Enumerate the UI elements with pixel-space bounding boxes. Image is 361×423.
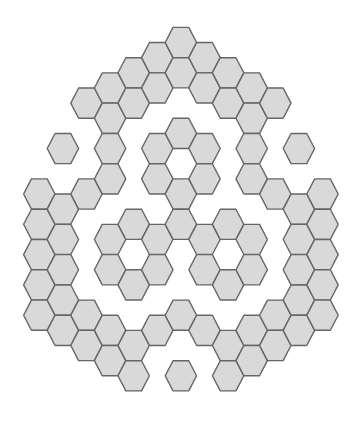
hexagon-tile: [165, 361, 196, 391]
hexagon-tile: [307, 209, 338, 239]
hexagon-tile: [47, 224, 78, 254]
hexagon-tile: [236, 255, 267, 285]
hexagon-tile: [307, 240, 338, 270]
hexagon-tile: [307, 179, 338, 209]
hexagon-figure: [0, 0, 361, 423]
hexagon-tile: [94, 164, 125, 194]
hexagon-tile: [118, 361, 149, 391]
hexagon-tile: [260, 88, 291, 118]
hexagon-tile: [47, 255, 78, 285]
hexagon-tile: [283, 133, 314, 163]
hexagon-tile: [47, 133, 78, 163]
hexagon-tile: [307, 300, 338, 330]
hexagon-tile: [189, 133, 220, 163]
hexagon-tile: [189, 164, 220, 194]
hexagon-tile: [142, 255, 173, 285]
hexagon-tile: [236, 133, 267, 163]
hexagon-tile: [236, 224, 267, 254]
hexagon-tile: [94, 133, 125, 163]
hexagon-tile: [307, 270, 338, 300]
